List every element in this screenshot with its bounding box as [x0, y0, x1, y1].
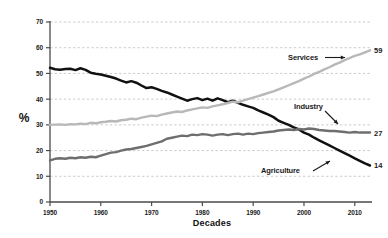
end-value-label-agriculture: 14: [374, 161, 383, 170]
series-annotation-agriculture: Agriculture: [261, 166, 300, 175]
x-tick-label-1960: 1960: [94, 209, 109, 216]
x-tick-label-1980: 1980: [195, 209, 210, 216]
end-value-label-services: 59: [374, 46, 382, 55]
series-line-industry: [50, 128, 370, 160]
y-tick-label-20: 20: [36, 147, 44, 154]
y-tick-label-0: 0: [39, 198, 43, 205]
series-annotation-industry: Industry: [294, 102, 324, 111]
x-tick-label-1990: 1990: [246, 209, 261, 216]
chart-canvas: 010203040506070 195019601970198019902000…: [0, 0, 388, 238]
y-tick-label-60: 60: [36, 44, 44, 51]
end-value-label-industry: 27: [374, 129, 382, 138]
x-axis-title: Decades: [193, 218, 231, 228]
y-tick-label-10: 10: [36, 173, 44, 180]
x-tick-label-2000: 2000: [297, 209, 312, 216]
series-annotation-services: Services: [288, 53, 318, 62]
x-tick-label-1950: 1950: [43, 209, 58, 216]
annotations-group: 145927ServicesIndustryAgriculture: [261, 46, 383, 175]
line-chart-figure: 010203040506070 195019601970198019902000…: [0, 0, 388, 238]
x-tick-label-1970: 1970: [145, 209, 160, 216]
y-axis-title: %: [19, 111, 30, 125]
x-tick-label-2010: 2010: [348, 209, 363, 216]
y-tick-label-30: 30: [36, 121, 44, 128]
y-tick-label-70: 70: [36, 18, 44, 25]
y-tick-label-40: 40: [36, 96, 44, 103]
y-axis-ticks-group: 010203040506070: [36, 18, 50, 205]
series-line-services: [50, 50, 370, 125]
x-axis-ticks-group: 1950196019701980199020002010: [43, 202, 362, 216]
y-tick-label-50: 50: [36, 70, 44, 77]
